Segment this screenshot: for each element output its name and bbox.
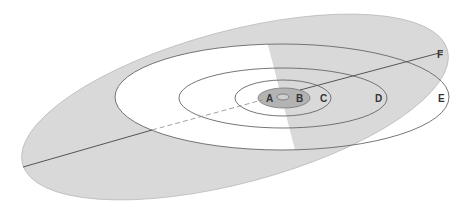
label-e: E	[438, 93, 445, 104]
label-b: B	[296, 93, 303, 104]
label-a: A	[266, 93, 273, 104]
label-f: F	[437, 49, 443, 60]
center-a	[277, 94, 289, 100]
orbit-diagram: A B C D E F	[0, 0, 473, 202]
label-d: D	[375, 93, 382, 104]
label-c: C	[320, 93, 327, 104]
